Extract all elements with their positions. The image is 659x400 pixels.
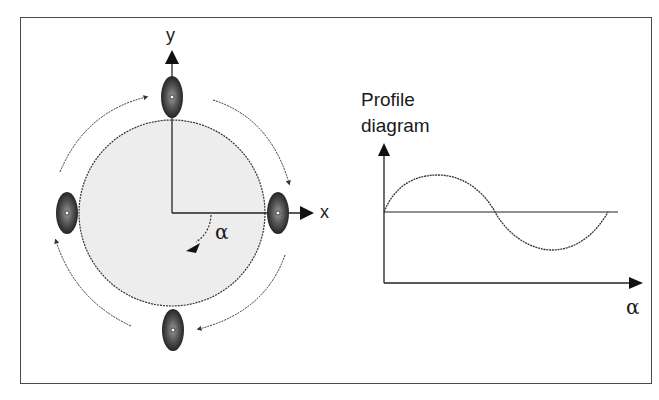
wheel-right	[267, 192, 289, 234]
profile-x-arrow-icon	[629, 277, 643, 289]
wheel-top	[161, 76, 183, 118]
wheel-left	[56, 192, 78, 234]
profile-y-arrow-icon	[378, 143, 390, 156]
x-axis-label: x	[320, 203, 329, 221]
profile-axes	[378, 143, 643, 289]
profile-title-line1: Profile	[361, 90, 415, 109]
angle-label: α	[215, 222, 229, 242]
profile-title-line2: diagram	[361, 116, 430, 135]
x-axis-arrow-icon	[300, 206, 314, 220]
y-axis-label: y	[166, 26, 175, 44]
wheel-bottom	[162, 309, 184, 351]
diagram-canvas	[0, 0, 659, 400]
profile-x-axis-label: α	[626, 297, 640, 317]
y-axis-arrow-icon	[165, 50, 179, 64]
